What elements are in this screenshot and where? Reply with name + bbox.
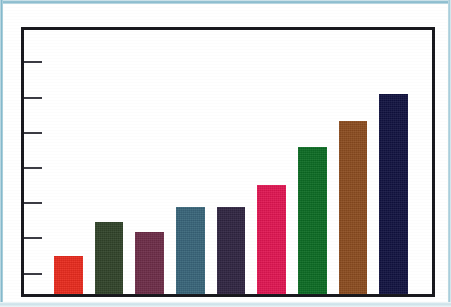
bar-8[interactable] [339,121,367,294]
bar-5[interactable] [217,207,245,294]
bar-texture [339,121,367,294]
bar-4[interactable] [176,207,204,294]
page-edge-left [0,0,3,307]
bar-6[interactable] [257,185,285,294]
page-inner-surface [4,5,447,302]
scanned-page [0,0,451,307]
bar-1[interactable] [54,256,82,294]
bar-texture [298,147,326,294]
bar-texture [135,232,163,294]
bar-chart [21,27,435,297]
page-edge-bottom [0,302,451,307]
bar-texture [257,185,285,294]
bar-3[interactable] [135,232,163,294]
bar-texture [217,207,245,294]
bar-texture [176,207,204,294]
bar-texture [95,222,123,294]
bar-texture [54,256,82,294]
bar-2[interactable] [95,222,123,294]
page-edge-top [0,0,451,4]
plot-area [24,30,432,294]
bar-9[interactable] [379,94,407,294]
bar-group [24,30,432,294]
bar-texture [379,94,407,294]
bar-7[interactable] [298,147,326,294]
